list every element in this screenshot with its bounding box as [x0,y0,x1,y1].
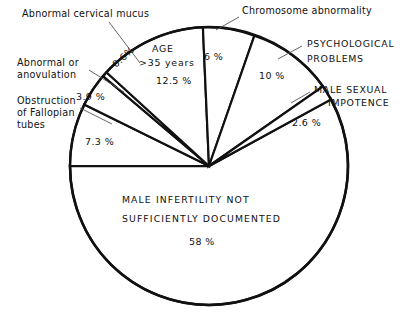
label-impotence-line2: IMPOTENCE [328,97,389,108]
label-male-infertility-line2: SUFFICIENTLY DOCUMENTED [122,213,281,224]
value-fallopian: 7.3 % [85,136,114,147]
label-psychological-line2: PROBLEMS [307,53,364,64]
label-chromosome: Chromosome abnormality [242,5,372,16]
pie-slices [70,27,348,305]
label-male-infertility-line1: MALE INFERTILITY NOT [122,194,250,205]
value-impotence: 2.6 % [292,117,321,128]
label-fallopian-line3: tubes [17,119,45,130]
label-age-line1: AGE [152,43,174,54]
label-fallopian-line2: of Fallopian [17,107,75,118]
label-impotence-line1: MALE SEXUAL [314,84,387,95]
label-cervical-mucus: Abnormal cervical mucus [22,8,149,19]
value-anovulation: 3.9 % [76,91,105,102]
pie-chart-svg: Abnormal cervical mucus Abnormal or anov… [0,0,413,328]
label-anovulation-line2: anovulation [17,69,76,80]
label-anovulation-line1: Abnormal or [17,57,79,68]
value-psychological: 10 % [259,70,285,81]
value-chromosome: 6 % [204,51,223,62]
value-age: 12.5 % [156,75,192,86]
value-male-infertility: 58 % [189,236,215,247]
label-psychological-line1: PSYCHOLOGICAL [307,38,394,49]
pie-chart-figure: Abnormal cervical mucus Abnormal or anov… [0,0,413,328]
label-fallopian-line1: Obstruction [17,95,76,106]
label-age-line2: >35 years [139,57,195,68]
